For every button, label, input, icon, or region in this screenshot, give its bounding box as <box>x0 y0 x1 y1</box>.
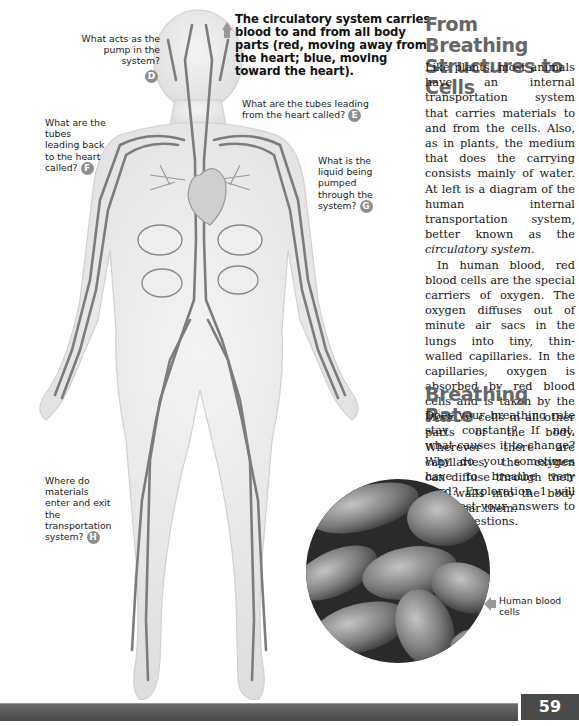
question-d: What acts as the pump in the system? D <box>80 33 160 83</box>
photo-caption-arrow-stem <box>491 600 496 608</box>
badge-h: H <box>87 531 100 544</box>
caption-arrow-stem <box>224 30 230 38</box>
photo-caption-arrow-icon <box>484 597 491 611</box>
diagram-main-caption: The circulatory system carries blood to … <box>235 13 435 78</box>
question-e: What are the tubes leading from the hear… <box>242 98 392 122</box>
caption-arrow-up-icon <box>222 22 232 30</box>
blood-cells-photo <box>305 478 491 664</box>
question-f-text: What are the tubes leading back to the h… <box>45 117 106 173</box>
question-h: Where do materials enter and exit the tr… <box>45 475 113 544</box>
footer-bar <box>0 703 518 721</box>
badge-f: F <box>81 162 94 175</box>
question-h-text: Where do materials enter and exit the tr… <box>45 475 111 542</box>
badge-d: D <box>145 70 158 83</box>
badge-e: E <box>348 109 361 122</box>
question-f: What are the tubes leading back to the h… <box>45 117 107 175</box>
term-circulatory-system: circulatory system <box>425 243 531 256</box>
page-number: 59 <box>521 694 579 720</box>
section1-paragraph-1: Like plants, most animals have an intern… <box>425 60 575 258</box>
question-d-text: What acts as the pump in the system? <box>82 33 160 66</box>
question-g: What is the liquid being pumped through … <box>318 155 390 213</box>
photo-caption: Human blood cells <box>499 595 567 617</box>
badge-g: G <box>360 200 373 213</box>
